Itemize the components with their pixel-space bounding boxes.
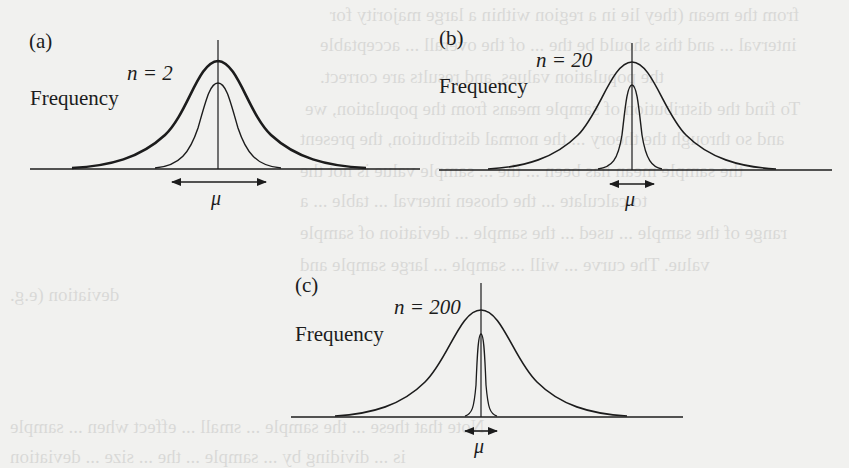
panel-c-mean-label: μ <box>474 436 484 456</box>
panel-b-ylabel: Frequency <box>439 76 528 97</box>
sampling-distribution-curve <box>598 85 662 169</box>
panel-a-mean-label: μ <box>211 188 221 208</box>
panel-a-n-label: n = 2 <box>127 63 173 84</box>
panel-b <box>439 43 832 184</box>
panel-a-tag: (a) <box>29 31 52 52</box>
panel-c-n-label: n = 200 <box>394 297 461 318</box>
panel-b-n-label: n = 20 <box>536 50 592 71</box>
panel-c-tag: (c) <box>295 275 318 296</box>
population-curve <box>72 61 366 168</box>
panel-b-mean-label: μ <box>625 189 635 209</box>
panel-c-ylabel: Frequency <box>295 324 384 345</box>
panel-c <box>291 283 683 431</box>
panel-a <box>30 40 420 182</box>
panel-b-tag: (b) <box>439 28 464 49</box>
panel-a-ylabel: Frequency <box>30 88 119 109</box>
